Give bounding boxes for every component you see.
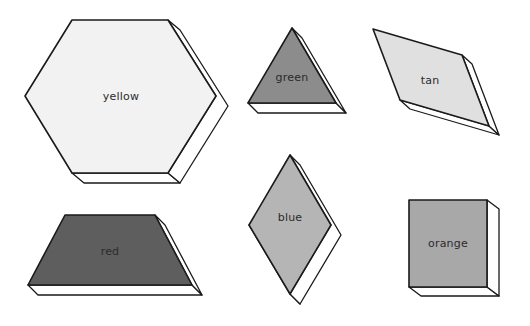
triangle-label: green bbox=[276, 71, 309, 84]
pattern-blocks-canvas: yellow green tan red blue bbox=[0, 0, 530, 326]
square-side-face bbox=[487, 200, 499, 296]
hexagon-bottom-face bbox=[72, 173, 180, 183]
block-green-triangle[interactable]: green bbox=[248, 28, 346, 113]
block-tan-rhombus[interactable]: tan bbox=[373, 29, 499, 135]
trapezoid-label: red bbox=[101, 245, 120, 258]
block-yellow-hexagon[interactable]: yellow bbox=[25, 20, 228, 183]
square-bottom-face bbox=[409, 287, 499, 296]
hexagon-label: yellow bbox=[103, 90, 139, 103]
block-blue-rhombus[interactable]: blue bbox=[249, 155, 341, 304]
triangle-top-face bbox=[248, 28, 336, 103]
triangle-bottom-face bbox=[248, 103, 346, 113]
square-label: orange bbox=[428, 237, 468, 250]
trapezoid-bottom-face bbox=[28, 285, 202, 295]
pattern-blocks-svg: yellow green tan red blue bbox=[0, 0, 530, 326]
tan-label: tan bbox=[421, 74, 440, 87]
block-red-trapezoid[interactable]: red bbox=[28, 215, 202, 295]
block-orange-square[interactable]: orange bbox=[409, 200, 499, 296]
rhombus-label: blue bbox=[278, 211, 303, 224]
